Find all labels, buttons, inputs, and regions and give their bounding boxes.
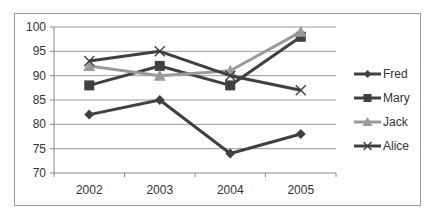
square-marker-icon — [225, 80, 235, 90]
series-line — [89, 37, 301, 86]
y-tick-label: 90 — [33, 69, 47, 83]
diamond-marker-icon — [296, 129, 306, 139]
legend-label: Mary — [383, 91, 410, 105]
y-tick-label: 70 — [33, 166, 47, 180]
legend: FredMaryJackAlice — [354, 67, 410, 153]
x-tick-label: 2003 — [146, 183, 173, 197]
y-tick-label: 100 — [26, 20, 46, 34]
series-jack — [83, 26, 307, 81]
legend-item-mary: Mary — [354, 91, 410, 105]
x-tick-label: 2005 — [287, 183, 314, 197]
legend-item-alice: Alice — [354, 139, 409, 153]
series-line — [89, 100, 301, 154]
y-tick-label: 75 — [33, 142, 47, 156]
y-axis-tick-labels: 707580859095100 — [26, 20, 46, 180]
line-chart: 707580859095100 2002200320042005 FredMar… — [0, 0, 435, 216]
x-tick-label: 2002 — [76, 183, 103, 197]
diamond-marker-icon — [84, 110, 94, 120]
diamond-marker-icon — [364, 70, 372, 78]
legend-label: Alice — [383, 139, 409, 153]
series-mary — [84, 32, 306, 91]
legend-label: Jack — [383, 115, 409, 129]
square-marker-icon — [84, 80, 94, 90]
data-series — [83, 26, 307, 159]
y-tick-label: 95 — [33, 44, 47, 58]
legend-label: Fred — [383, 67, 408, 81]
square-marker-icon — [155, 61, 165, 71]
axes — [50, 27, 336, 177]
legend-item-jack: Jack — [354, 115, 409, 129]
triangle-marker-icon — [295, 26, 307, 37]
y-tick-label: 80 — [33, 117, 47, 131]
series-line — [89, 32, 301, 76]
x-tick-label: 2004 — [217, 183, 244, 197]
x-axis-tick-labels: 2002200320042005 — [76, 183, 315, 197]
y-tick-label: 85 — [33, 93, 47, 107]
square-marker-icon — [364, 94, 372, 102]
legend-item-fred: Fred — [354, 67, 408, 81]
